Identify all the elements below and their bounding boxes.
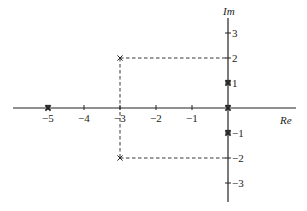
imaginary-tick-label: 2: [232, 52, 238, 64]
imaginary-tick-label: −3: [232, 177, 244, 189]
real-axis-label: Re: [279, 114, 292, 126]
imaginary-tick-label: 3: [232, 27, 238, 39]
imaginary-tick-label: −1: [232, 127, 244, 139]
axes: [13, 18, 296, 202]
real-tick-label: −2: [150, 112, 162, 124]
real-tick-label: −4: [78, 112, 90, 124]
complex-plane-diagram: −5−4−3−2−1321−1−2−3 Im Re: [0, 0, 307, 211]
imaginary-axis-label: Im: [222, 5, 235, 17]
real-tick-label: −3: [114, 112, 126, 124]
real-tick-label: −1: [186, 112, 198, 124]
imaginary-tick-label: −2: [232, 152, 244, 164]
imaginary-tick-label: 1: [232, 77, 238, 89]
real-tick-label: −5: [42, 112, 54, 124]
